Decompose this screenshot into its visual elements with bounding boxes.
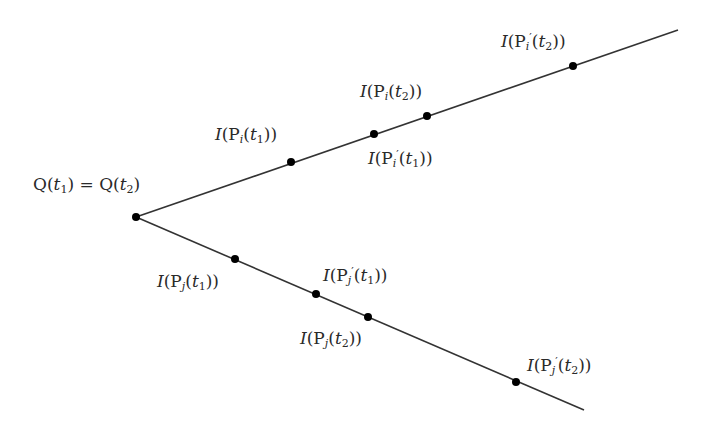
point-Pi-t2 [423, 112, 431, 120]
sub-j: j [182, 280, 185, 293]
sym-P: P [381, 148, 392, 168]
fn-I: I [527, 355, 534, 375]
sub-i: i [240, 133, 244, 146]
prime: ′ [555, 355, 558, 368]
label-Pj-t1: I(Pj(t1)) [157, 273, 219, 292]
sym-P: P [336, 265, 347, 285]
sub-j: j [325, 337, 328, 350]
sym-P: P [373, 81, 384, 101]
sym-P: P [540, 355, 551, 375]
point-Pj-prime-t2 [512, 378, 520, 386]
sub-2: 2 [571, 364, 578, 377]
sub-i: i [385, 90, 389, 103]
point-Pi-t1 [287, 158, 295, 166]
fn-I: I [360, 81, 367, 101]
fn-I: I [368, 148, 375, 168]
origin-label: Q(t1) = Q(t2) [33, 176, 140, 195]
origin-point [132, 213, 140, 221]
sym-P: P [313, 328, 324, 348]
origin-Q1: Q [33, 174, 47, 194]
prime: ′ [351, 265, 354, 278]
origin-t2: t [120, 174, 127, 194]
fn-I: I [215, 124, 222, 144]
sub-1: 1 [412, 157, 419, 170]
point-Pj-t2 [364, 313, 372, 321]
label-Pj-t2: I(Pj(t2)) [300, 330, 362, 349]
sym-t: t [395, 81, 402, 101]
fn-I: I [300, 328, 307, 348]
sub-2: 2 [402, 90, 409, 103]
sym-P: P [514, 31, 525, 51]
prime: ′ [396, 148, 399, 161]
sub-1: 1 [367, 274, 374, 287]
fn-I: I [323, 265, 330, 285]
label-Pi-t1: I(Pi(t1)) [215, 126, 277, 145]
prime: ′ [529, 31, 532, 44]
point-Pi-prime-t1 [370, 130, 378, 138]
sym-t: t [192, 271, 199, 291]
point-Pj-prime-t1 [312, 290, 320, 298]
fn-I: I [157, 271, 164, 291]
sym-P: P [228, 124, 239, 144]
origin-Q2: Q [99, 174, 113, 194]
sym-t: t [335, 328, 342, 348]
label-Pj-prime-t2: I(Pj′(t2)) [527, 356, 591, 376]
origin-equals: = [74, 174, 99, 194]
sym-P: P [170, 271, 181, 291]
sub-1: 1 [257, 133, 264, 146]
fn-I: I [501, 31, 508, 51]
sub-2: 2 [342, 337, 349, 350]
point-Pi-prime-t2 [569, 62, 577, 70]
sub-2: 2 [545, 40, 552, 53]
label-Pj-prime-t1: I(Pj′(t1)) [323, 266, 387, 286]
origin-sub1: 1 [60, 183, 67, 196]
origin-sub2: 2 [127, 183, 134, 196]
label-Pi-t2: I(Pi(t2)) [360, 83, 422, 102]
label-Pi-prime-t2: I(Pi′(t2)) [501, 32, 566, 52]
diagram-canvas [0, 0, 709, 432]
label-Pi-prime-t1: I(Pi′(t1)) [368, 149, 433, 169]
sub-1: 1 [199, 280, 206, 293]
point-Pj-t1 [231, 255, 239, 263]
sym-t: t [250, 124, 257, 144]
